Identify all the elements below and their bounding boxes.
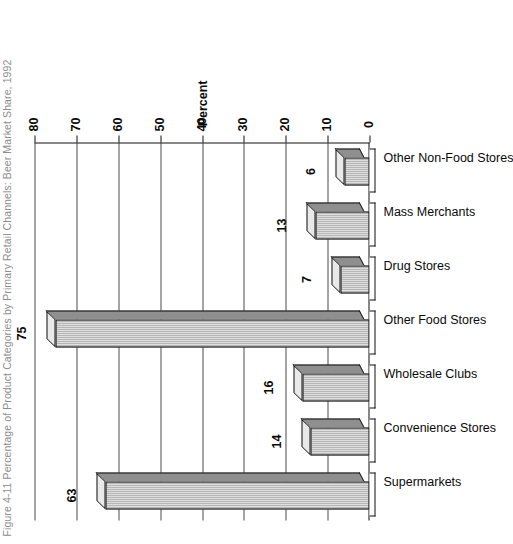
axis-tick-label: 20 [277, 112, 291, 136]
bar-base [369, 256, 375, 300]
category-label: Convenience Stores [383, 421, 496, 435]
bar[interactable]: 16Wholesale Clubs [302, 373, 369, 401]
axis-tick-label: 30 [235, 112, 249, 136]
bar-base [369, 364, 375, 408]
plot-area: 01020304050607080 63Supermarkets14Conven… [34, 142, 369, 520]
bar[interactable]: 75Other Food Stores [55, 319, 369, 347]
bar-value-label: 6 [303, 168, 317, 175]
category-label: Other Non-Food Stores [383, 151, 513, 165]
category-label: Drug Stores [383, 259, 450, 273]
bar[interactable]: 13Mass Merchants [315, 211, 369, 239]
bar-value-label: 7 [299, 276, 313, 283]
bar[interactable]: 7Drug Stores [340, 265, 369, 293]
bar-base [369, 202, 375, 246]
chart-title: Figure 4-11 Percentage of Product Catego… [0, 16, 16, 536]
category-label: Mass Merchants [383, 205, 475, 219]
gridline [34, 142, 35, 520]
category-label: Other Food Stores [383, 313, 486, 327]
bar-front-face [310, 427, 369, 455]
bar-base [369, 148, 375, 192]
bar-base [369, 418, 375, 462]
axis-tick-label: 50 [152, 112, 166, 136]
bar-front-face [315, 211, 369, 239]
bar-value-label: 16 [261, 380, 275, 394]
bar-side-face [45, 310, 364, 319]
axis-tick-label: 10 [319, 112, 333, 136]
bar-front-face [302, 373, 369, 401]
axis-tick-label: 70 [68, 112, 82, 136]
value-axis-title: Percent [195, 80, 209, 126]
bar-value-label: 75 [14, 326, 28, 340]
category-label: Wholesale Clubs [383, 367, 477, 381]
bar-front-face [55, 319, 369, 347]
axis-tick-label: 60 [110, 112, 124, 136]
bar-side-face [292, 364, 364, 373]
bar-value-label: 13 [274, 218, 288, 232]
axis-tick-label: 0 [361, 112, 375, 136]
bar[interactable]: 6Other Non-Food Stores [344, 157, 369, 185]
bar-front-face [340, 265, 369, 293]
bar-side-face [301, 418, 364, 427]
category-label: Supermarkets [383, 475, 461, 489]
bar-value-label: 14 [269, 434, 283, 448]
bar-value-label: 63 [64, 488, 78, 502]
bar-base [369, 472, 375, 516]
bar-side-face [95, 472, 364, 481]
bar[interactable]: 63Supermarkets [105, 481, 369, 509]
bar-front-face [105, 481, 369, 509]
bar[interactable]: 14Convenience Stores [310, 427, 369, 455]
bar-front-face [344, 157, 369, 185]
bar-base [369, 310, 375, 354]
axis-tick-label: 80 [26, 112, 40, 136]
